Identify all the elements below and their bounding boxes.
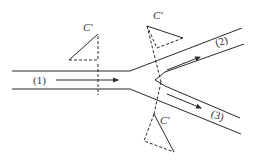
- control-surface-2-dashed: [147, 26, 183, 48]
- control-surface-1-hypotenuse: [69, 34, 98, 60]
- channel-outer-wall-bottom: [12, 89, 241, 134]
- control-surface-label-3: C': [160, 115, 170, 126]
- control-surface-label-2: C': [153, 10, 163, 21]
- control-surface-branch-section: [147, 26, 161, 82]
- flow-arrow-2: [167, 57, 200, 70]
- control-surface-2-solid: [147, 26, 183, 38]
- channel-inner-wall-upper: [155, 44, 244, 80]
- control-surface-label-1: C': [83, 22, 93, 33]
- channel-inner-wall-lower: [155, 80, 240, 118]
- control-surface-branch-section-lower: [154, 82, 161, 114]
- channel-label-1: (1): [33, 75, 46, 86]
- channel-outer-wall-top: [12, 28, 242, 71]
